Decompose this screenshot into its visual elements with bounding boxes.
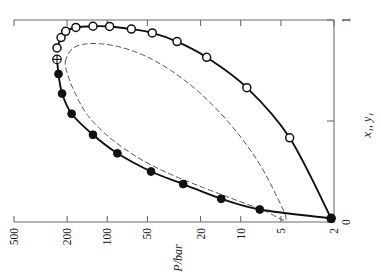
- x-axis-label: P/bar: [171, 244, 185, 273]
- liquid-data-point: [113, 149, 121, 157]
- y-axis-label: x₁, y₁: [360, 113, 374, 139]
- vapour-data-point: [89, 22, 97, 30]
- phase-diagram-svg: 5002001005020105210P/barx₁, y₁: [0, 0, 381, 279]
- x-tick-label-100: 100: [101, 228, 113, 246]
- vapour-data-point: [243, 84, 251, 92]
- vapour-data-point: [53, 44, 61, 52]
- x-tick-label-10: 10: [235, 228, 247, 240]
- liquid-data-point: [256, 206, 264, 214]
- liquid-data-point: [55, 70, 63, 78]
- curve-vapour-branch: [57, 26, 331, 218]
- y-tick-label-0: 0: [340, 219, 352, 225]
- x-tick-label-200: 200: [61, 228, 73, 246]
- vapour-data-point: [62, 27, 70, 35]
- axis-layer: [14, 20, 334, 222]
- x-tick-label-5: 5: [275, 228, 287, 234]
- critical-point-marker: [53, 55, 61, 63]
- experimental-curves: [57, 26, 331, 218]
- vapour-data-point: [106, 22, 114, 30]
- calculated-envelope-curve: [65, 43, 286, 220]
- vapour-data-point: [72, 23, 80, 31]
- vapour-data-point: [286, 134, 294, 142]
- y-tick-label-1: 1: [340, 17, 352, 23]
- x-tick-label-20: 20: [195, 228, 207, 240]
- liquid-data-point: [68, 110, 76, 118]
- liquid-data-point: [327, 214, 335, 222]
- curve-calculated-envelope: [65, 43, 286, 220]
- vapour-data-point: [203, 53, 211, 61]
- vapour-data-point: [127, 25, 135, 33]
- liquid-data-point: [179, 180, 187, 188]
- liquid-data-point: [147, 168, 155, 176]
- liquid-data-point: [217, 195, 225, 203]
- vapour-data-point: [173, 38, 181, 46]
- liquid-data-point: [58, 90, 66, 98]
- data-point-markers: [53, 22, 335, 222]
- x-tick-label-2: 2: [328, 228, 340, 234]
- x-tick-label-50: 50: [141, 228, 153, 240]
- phase-diagram-figure: 5002001005020105210P/barx₁, y₁: [0, 0, 381, 279]
- axis-text-layer: 5002001005020105210P/barx₁, y₁: [8, 17, 374, 273]
- x-tick-label-500: 500: [8, 228, 20, 246]
- vapour-data-point: [148, 29, 156, 37]
- liquid-data-point: [89, 131, 97, 139]
